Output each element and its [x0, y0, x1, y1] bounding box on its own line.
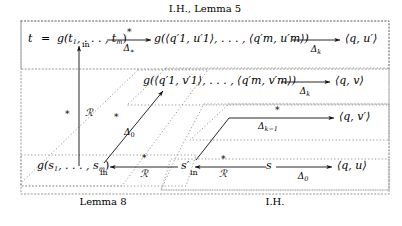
region-label-bottom-right: I.H. — [265, 197, 284, 207]
arrow-label-row3-above: ∗ — [274, 104, 280, 113]
arrow-label-vertical-tip: in — [82, 41, 90, 49]
arrow-label-bottom-in-2: in — [190, 169, 198, 177]
region-label-top: I.H., Lemma 5 — [169, 4, 241, 14]
node-t-text: t — [28, 32, 32, 45]
node-row1-tuple: g(⟨q′1, u′1⟩, . . . , ⟨q′m, u′m⟩) — [154, 33, 309, 44]
node-row3-target: ⟨q, v′⟩ — [339, 111, 370, 122]
arrow-label-row1-below: Δ∗ — [124, 44, 135, 54]
node-s: s — [266, 160, 272, 171]
arrow-label-row2-below: Δk — [300, 87, 310, 97]
node-row4-target: ⟨q, u⟩ — [337, 160, 367, 171]
arrow-label-diag1-below: Δ0 — [124, 128, 135, 138]
arrow-label-row1-right-below: Δk — [311, 45, 321, 55]
node-s-prime: s′ — [181, 160, 189, 171]
node-t: t — [28, 33, 32, 44]
arrow-label-row1-above: ∗ — [126, 26, 132, 35]
arrow-diagonal-delta0 — [104, 91, 163, 163]
node-row1-target: ⟨q, u′⟩ — [345, 33, 377, 44]
node-row2-tuple: g(⟨q′1, v′1⟩, . . . , ⟨q′m, v′m⟩) — [143, 75, 296, 86]
arrow-label-row4-below: Δ0 — [298, 172, 309, 182]
arrow-label-bottom-star-2: ∗ — [220, 153, 226, 162]
arrow-label-bottom-R-1: ℛ — [140, 169, 148, 179]
arrow-label-row3-below: Δk−1 — [258, 122, 278, 132]
region-label-bottom-left: Lemma 8 — [79, 197, 126, 207]
node-row2-target: ⟨q, v⟩ — [335, 75, 364, 86]
arrow-label-bottom-star-1: ∗ — [141, 152, 147, 161]
arrow-label-bottom-R-2: ℛ — [219, 169, 227, 179]
arrow-label-vertical-right: ℛ — [85, 108, 93, 118]
equals-sign: = — [41, 33, 50, 44]
arrow-label-diag1-above: ∗ — [113, 111, 119, 120]
diagram-canvas: I.H., Lemma 5 t = g(t1, . . . , tm) ∗ Δ∗… — [0, 0, 402, 226]
arrow-label-vertical-left: ∗ — [64, 108, 70, 117]
node-g-t: g(t1, . . . , tm) — [57, 33, 127, 45]
node-g-s: g(s1, . . . , sm) — [37, 160, 109, 172]
arrow-label-bottom-in-1: in — [100, 169, 108, 177]
